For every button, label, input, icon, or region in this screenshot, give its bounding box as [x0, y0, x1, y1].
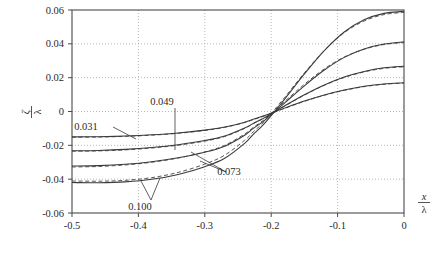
x-axis-label-numerator: x — [421, 191, 427, 202]
annotation-label-0.049: 0.049 — [150, 96, 174, 107]
y-tick-label: -0.02 — [42, 140, 64, 151]
y-tick-label: -0.04 — [42, 174, 65, 185]
y-tick-label: 0 — [59, 106, 64, 117]
x-tick-label: 0 — [401, 220, 406, 231]
y-tick-label: 0.02 — [46, 72, 64, 83]
annotation-label-0.100: 0.100 — [128, 201, 152, 212]
line-chart: -0.5-0.4-0.3-0.2-0.10 0.060.040.020-0.02… — [0, 0, 440, 253]
y-tick-label: 0.04 — [46, 38, 65, 49]
x-tick-label: -0.5 — [64, 220, 81, 231]
annotation-label-0.073: 0.073 — [217, 166, 241, 177]
annotation-label-0.031: 0.031 — [74, 121, 98, 132]
chart-background — [0, 0, 440, 253]
x-tick-label: -0.2 — [263, 220, 280, 231]
y-tick-label: 0.06 — [46, 5, 64, 16]
x-tick-label: -0.3 — [196, 220, 213, 231]
x-tick-label: -0.1 — [329, 220, 346, 231]
y-axis-label-numerator: ζ — [20, 109, 32, 114]
x-tick-label: -0.4 — [130, 220, 147, 231]
y-tick-label: -0.06 — [42, 208, 64, 219]
chart-root: -0.5-0.4-0.3-0.2-0.10 0.060.040.020-0.02… — [0, 0, 440, 253]
